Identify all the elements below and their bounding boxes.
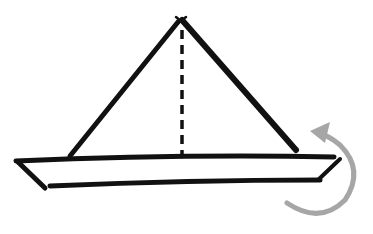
- origami-boat-diagram: [0, 0, 373, 234]
- background: [0, 0, 373, 234]
